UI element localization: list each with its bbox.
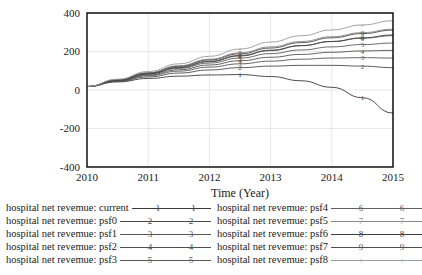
legend-marker-glyph: + <box>399 254 404 266</box>
legend-item-right-1[interactable]: hospital net revemue: psf577 <box>217 214 422 227</box>
legend-marker-glyph: 9 <box>359 241 364 253</box>
legend-item-left-3[interactable]: hospital net revemue: psf244 <box>6 240 211 253</box>
legend-marker-glyph: 2 <box>148 215 153 227</box>
legend-marker-glyph: 8 <box>400 228 405 240</box>
legend-item-label: hospital net revemue: psf0 <box>6 214 117 227</box>
legend-item-right-0[interactable]: hospital net revemue: psf466 <box>217 201 422 214</box>
series-marker-1: 2 <box>361 63 365 71</box>
series-group: 112233445566778899++ <box>87 21 393 113</box>
legend-item-left-0[interactable]: hospital net revemue: current11 <box>6 201 211 214</box>
chart-container: 112233445566778899++4002000-200-40020102… <box>0 0 422 275</box>
series-marker-9: + <box>238 46 242 54</box>
legend-marker-glyph: + <box>359 254 364 266</box>
x-axis-tick-label: 2015 <box>382 171 405 183</box>
legend-marker-glyph: 7 <box>400 215 405 227</box>
legend-line-swatch <box>331 234 422 235</box>
legend-item-right-4[interactable]: hospital net revemue: psf8++ <box>217 253 422 266</box>
legend-item-right-2[interactable]: hospital net revemue: psf688 <box>217 227 422 240</box>
legend-line-swatch <box>120 260 211 261</box>
x-axis-tick-label: 2013 <box>260 171 283 183</box>
legend-item-label: hospital net revemue: psf4 <box>217 201 328 214</box>
legend-column-right: hospital net revemue: psf466hospital net… <box>211 199 422 275</box>
legend-item-label: hospital net revemue: psf8 <box>217 253 328 266</box>
legend-marker-glyph: 1 <box>191 202 196 214</box>
legend-marker-glyph: 3 <box>189 228 194 240</box>
legend-item-label: hospital net revemue: psf2 <box>6 240 117 253</box>
legend-marker-glyph: 7 <box>359 215 364 227</box>
legend-item-left-2[interactable]: hospital net revemue: psf133 <box>6 227 211 240</box>
legend-marker-glyph: 1 <box>156 202 161 214</box>
legend-marker-glyph: 2 <box>189 215 194 227</box>
series-marker-9: + <box>360 22 364 30</box>
legend-marker-glyph: 4 <box>148 241 153 253</box>
legend-item-label: hospital net revemue: psf5 <box>217 214 328 227</box>
legend-line-swatch <box>331 247 422 248</box>
legend-marker-glyph: 6 <box>400 202 405 214</box>
plot-area: 112233445566778899++4002000-200-40020102… <box>0 0 422 200</box>
series-marker-0: 1 <box>361 94 365 102</box>
y-axis-tick-label: 0 <box>75 84 81 96</box>
x-axis-tick-label: 2012 <box>198 171 220 183</box>
legend-sample-line: 44 <box>120 241 211 253</box>
legend-marker-glyph: 5 <box>148 254 153 266</box>
legend-marker-glyph: 3 <box>148 228 153 240</box>
x-axis-tick-label: 2010 <box>76 171 99 183</box>
legend-marker-glyph: 4 <box>189 241 194 253</box>
legend-item-label: hospital net revemue: psf6 <box>217 227 328 240</box>
legend-item-label: hospital net revemue: psf7 <box>217 240 328 253</box>
legend-line-swatch <box>120 221 211 222</box>
chart-legend: hospital net revemue: current11hospital … <box>0 199 422 275</box>
y-axis-tick-label: -200 <box>60 122 81 134</box>
legend-line-swatch <box>120 247 211 248</box>
legend-line-swatch <box>132 208 211 209</box>
legend-item-left-1[interactable]: hospital net revemue: psf022 <box>6 214 211 227</box>
series-line-0 <box>87 75 393 114</box>
y-axis-tick-label: 200 <box>64 45 81 57</box>
legend-marker-glyph: 5 <box>189 254 194 266</box>
legend-sample-line: 77 <box>331 215 422 227</box>
legend-sample-line: ++ <box>331 254 422 266</box>
legend-line-swatch <box>331 260 422 261</box>
legend-sample-line: 66 <box>331 202 422 214</box>
legend-marker-glyph: 8 <box>359 228 364 240</box>
legend-marker-glyph: 9 <box>400 241 405 253</box>
x-axis-title: Time (Year) <box>211 186 269 200</box>
legend-sample-line: 11 <box>132 202 211 214</box>
line-chart-svg: 112233445566778899++4002000-200-40020102… <box>0 0 422 200</box>
legend-marker-glyph: 6 <box>359 202 364 214</box>
legend-column-left: hospital net revemue: current11hospital … <box>0 199 211 275</box>
legend-sample-line: 55 <box>120 254 211 266</box>
legend-sample-line: 88 <box>331 228 422 240</box>
legend-item-label: hospital net revemue: psf1 <box>6 227 117 240</box>
x-axis-tick-label: 2011 <box>137 171 159 183</box>
legend-item-left-4[interactable]: hospital net revemue: psf355 <box>6 253 211 266</box>
legend-line-swatch <box>331 208 422 209</box>
legend-item-label: hospital net revemue: current <box>6 201 129 214</box>
legend-item-right-3[interactable]: hospital net revemue: psf799 <box>217 240 422 253</box>
legend-sample-line: 99 <box>331 241 422 253</box>
legend-line-swatch <box>331 221 422 222</box>
series-marker-0: 1 <box>238 71 242 79</box>
x-axis-tick-label: 2014 <box>321 171 344 183</box>
series-marker-8: 9 <box>361 30 365 38</box>
legend-sample-line: 33 <box>120 228 211 240</box>
legend-item-label: hospital net revemue: psf3 <box>6 253 117 266</box>
legend-sample-line: 22 <box>120 215 211 227</box>
legend-line-swatch <box>120 234 211 235</box>
y-axis-tick-label: 400 <box>64 7 81 19</box>
